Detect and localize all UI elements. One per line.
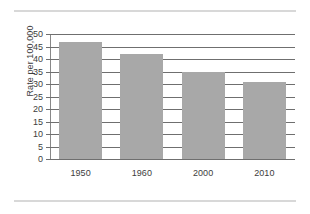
y-axis-tick-label: 20 xyxy=(33,104,43,114)
bars-group xyxy=(50,34,295,159)
y-axis-tick-label: 0 xyxy=(38,154,43,164)
y-axis-tick-label: 50 xyxy=(33,29,43,39)
y-axis-tick-mark xyxy=(46,159,50,160)
bar-chart-figure: Rate per 100,000 50454035302520151050 19… xyxy=(0,18,310,196)
y-axis-tick-label: 15 xyxy=(33,117,43,127)
x-axis-tick-label: 2010 xyxy=(254,168,274,178)
y-axis-tick-label: 25 xyxy=(33,92,43,102)
y-axis-tick-label: 30 xyxy=(33,79,43,89)
y-axis-tick-label: 40 xyxy=(33,54,43,64)
plot-area: 50454035302520151050 xyxy=(50,34,295,159)
x-axis-tick-label: 1950 xyxy=(71,168,91,178)
y-axis-tick-label: 5 xyxy=(38,142,43,152)
bar xyxy=(120,54,163,159)
bottom-divider-rule xyxy=(14,200,296,202)
y-axis-tick-label: 45 xyxy=(33,42,43,52)
y-axis-tick-label: 35 xyxy=(33,67,43,77)
bar xyxy=(59,42,102,160)
bar xyxy=(243,82,286,160)
gridline: 0 xyxy=(50,159,295,160)
y-axis-tick-label: 10 xyxy=(33,129,43,139)
x-axis-tick-labels: 1950196020002010 xyxy=(50,168,295,184)
x-axis-tick-label: 1960 xyxy=(132,168,152,178)
bar xyxy=(182,72,225,160)
x-axis-tick-label: 2000 xyxy=(193,168,213,178)
top-divider-rule xyxy=(14,10,296,12)
